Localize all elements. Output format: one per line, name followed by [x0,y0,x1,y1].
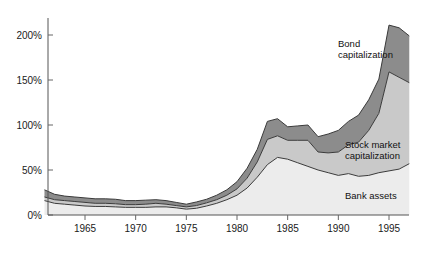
chart-container: 0%50%100%150%200% 1965197019751980198519… [0,0,424,258]
y-tick-label: 200% [16,30,42,41]
x-tick-label: 1985 [277,223,300,234]
x-tick-label: 1965 [74,223,97,234]
x-tick-label: 1995 [378,223,401,234]
x-tick-label: 1975 [175,223,198,234]
x-tick-label: 1990 [327,223,350,234]
stacked-area-chart: 0%50%100%150%200% 1965197019751980198519… [0,0,424,258]
stock-market-capitalization-label: Stock marketcapitalization [345,139,401,161]
bank-assets-label: Bank assets [345,190,397,201]
y-tick-label: 100% [16,120,42,131]
y-tick-label: 50% [22,165,42,176]
x-tick-label: 1980 [226,223,249,234]
x-tick-label: 1970 [125,223,148,234]
y-tick-label: 0% [28,210,43,221]
y-tick-label: 150% [16,75,42,86]
